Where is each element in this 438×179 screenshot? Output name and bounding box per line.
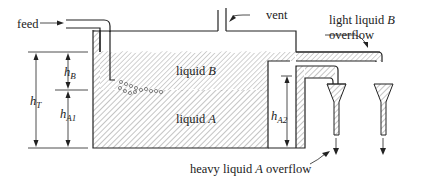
liquid-a-label: liquid A — [176, 112, 216, 126]
decanter-diagram: feed vent light liquid B overflow heavy … — [0, 0, 438, 179]
feed-label: feed — [17, 17, 39, 31]
hA2-label: hA2 — [271, 109, 288, 125]
funnel-light — [374, 84, 393, 155]
hB-label: hB — [64, 65, 76, 81]
weir-hatch — [296, 66, 304, 148]
light-overflow-label: light liquid B — [329, 13, 395, 27]
heavy-overflow-label: heavy liquid A overflow — [190, 162, 311, 176]
funnel-heavy — [327, 84, 346, 155]
light-overflow-label-2: overflow — [329, 28, 374, 42]
vent-label: vent — [266, 8, 288, 22]
liquid-b-label: liquid B — [176, 64, 216, 78]
left-wall — [93, 30, 100, 90]
hT-label: hT — [30, 94, 42, 110]
